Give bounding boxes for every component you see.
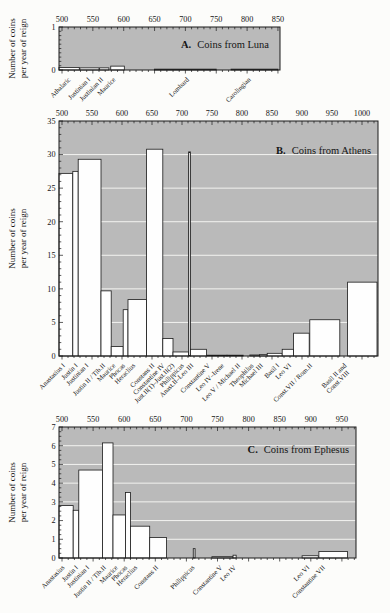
x-axis-label: Basil II andConst.VIII [320, 361, 353, 394]
svg-text:650: 650 [146, 109, 158, 118]
svg-text:5: 5 [51, 460, 55, 469]
svg-text:30: 30 [47, 150, 55, 159]
bar [113, 515, 125, 558]
bar [282, 349, 293, 356]
svg-text:35: 35 [47, 117, 55, 126]
svg-text:500: 500 [56, 15, 68, 24]
svg-text:550: 550 [87, 15, 99, 24]
bar [189, 152, 191, 356]
svg-text:15: 15 [47, 251, 55, 260]
svg-text:10: 10 [47, 285, 55, 294]
bar [150, 537, 167, 558]
bar [190, 349, 206, 356]
bar [111, 66, 125, 70]
svg-text:1: 1 [51, 535, 55, 544]
chart-panel-b: 5005506006507007508008509009501000051015… [7, 109, 378, 405]
bar [173, 352, 189, 356]
x-axis-label: Carolingian [224, 75, 252, 103]
x-axis-label: Philippicus [169, 564, 196, 591]
svg-text:1: 1 [51, 23, 55, 32]
bar [73, 510, 79, 558]
bar [348, 282, 377, 356]
y-axis-tick-labels: 01 [51, 23, 55, 75]
x-axis-category-labels: Anastasius IJustin IJustinian IJustin II… [38, 361, 353, 405]
svg-text:1000: 1000 [354, 109, 370, 118]
bar [111, 347, 123, 356]
svg-text:800: 800 [241, 15, 253, 24]
svg-text:500: 500 [56, 415, 68, 424]
svg-text:950: 950 [336, 415, 348, 424]
svg-text:4: 4 [51, 479, 55, 488]
svg-text:500: 500 [56, 109, 68, 118]
x-axis-category-labels: AthalaricJustinian IJustinian IIMauriceL… [49, 75, 252, 103]
svg-text:850: 850 [272, 15, 284, 24]
svg-text:0: 0 [51, 66, 55, 75]
x-axis-tick-labels: 5005506006507007508008509009501000 [56, 109, 370, 118]
x-axis-label: Constantine V [191, 564, 224, 597]
coin-frequency-figure-page: 50055060065070075080085001A.Coins from L… [0, 0, 390, 613]
svg-text:750: 750 [211, 415, 223, 424]
bar [79, 470, 103, 558]
bar [319, 551, 348, 558]
svg-text:3: 3 [51, 498, 55, 507]
svg-text:600: 600 [118, 415, 130, 424]
y-axis-title: Number of coinsper year of reign [7, 208, 28, 269]
bar [310, 320, 340, 356]
svg-text:850: 850 [274, 415, 286, 424]
x-axis-tick-labels: 500550600650700750800850900950 [56, 415, 348, 424]
svg-text:0: 0 [51, 554, 55, 563]
svg-text:650: 650 [149, 415, 161, 424]
bar [59, 173, 73, 356]
bar [128, 300, 147, 356]
bar [73, 171, 78, 356]
x-axis-tick-labels: 500550600650700750800850 [56, 15, 284, 24]
chart-panel-c: 50055060065070075080085090095001234567C.… [7, 415, 356, 599]
bar [130, 526, 149, 558]
svg-text:750: 750 [210, 15, 222, 24]
svg-text:850: 850 [266, 109, 278, 118]
svg-text:950: 950 [326, 109, 338, 118]
bar [101, 291, 111, 356]
svg-text:650: 650 [148, 15, 160, 24]
y-axis-tick-labels: 01234567 [51, 423, 55, 563]
svg-text:900: 900 [305, 415, 317, 424]
svg-text:600: 600 [118, 15, 130, 24]
svg-text:20: 20 [47, 218, 55, 227]
bar [125, 493, 130, 559]
bar [59, 506, 73, 558]
svg-text:2: 2 [51, 516, 55, 525]
coin-frequency-histograms: 50055060065070075080085001A.Coins from L… [0, 0, 390, 613]
svg-text:0: 0 [51, 352, 55, 361]
bar [193, 549, 195, 558]
svg-text:900: 900 [296, 109, 308, 118]
x-axis-label: Lombard [168, 75, 191, 98]
svg-text:700: 700 [179, 15, 191, 24]
svg-text:700: 700 [176, 109, 188, 118]
svg-text:6: 6 [51, 442, 55, 451]
svg-text:800: 800 [236, 109, 248, 118]
svg-text:800: 800 [242, 415, 254, 424]
chart-panel-a: 50055060065070075080085001A.Coins from L… [7, 15, 284, 103]
svg-text:700: 700 [180, 415, 192, 424]
bar [163, 339, 173, 356]
svg-text:750: 750 [206, 109, 218, 118]
svg-text:600: 600 [116, 109, 128, 118]
bar [294, 333, 310, 356]
y-axis-tick-labels: 05101520253035 [47, 117, 55, 361]
svg-text:25: 25 [47, 184, 55, 193]
y-axis-title: Number of coinsper year of reign [7, 18, 28, 79]
bar [78, 159, 101, 356]
svg-text:7: 7 [51, 423, 55, 432]
bar [147, 149, 163, 356]
svg-text:5: 5 [51, 318, 55, 327]
bar [102, 443, 113, 558]
svg-text:550: 550 [87, 415, 99, 424]
bar [123, 310, 128, 356]
y-axis-title: Number of coinsper year of reign [7, 462, 28, 523]
x-axis-category-labels: AnastasiusJustin IJustinian IJustin II /… [40, 563, 327, 599]
svg-text:550: 550 [86, 109, 98, 118]
